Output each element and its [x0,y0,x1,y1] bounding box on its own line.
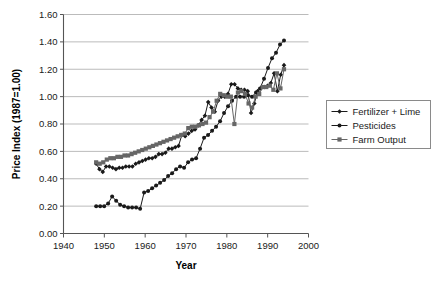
data-point [222,111,226,115]
data-point [214,125,218,129]
data-point [194,156,198,160]
data-point [98,204,102,208]
data-point [226,104,230,108]
data-point [94,204,98,208]
data-point [182,166,186,170]
legend-label: Fertilizer + Lime [353,106,421,117]
y-tick-label: 0.60 [39,146,58,157]
data-point [178,164,182,168]
data-point [146,189,150,193]
x-tick-label: 1970 [175,240,196,251]
x-axis-title: Year [175,260,196,271]
data-point [186,160,190,164]
data-point [158,181,162,185]
data-point [154,184,158,188]
circle-marker [338,124,342,128]
data-point [278,86,282,90]
data-point [142,190,146,194]
data-point [134,205,138,209]
data-point [268,84,272,88]
y-tick-label: 1.20 [39,64,58,75]
data-point [207,115,211,119]
y-tick-label: 0.80 [39,118,58,129]
data-point [278,43,282,47]
data-point [282,67,286,71]
data-point [122,204,126,208]
data-point [266,66,270,70]
data-point [262,77,266,81]
data-point [126,205,130,209]
y-tick-labels: 0.000.200.400.600.801.001.201.401.60 [39,9,58,239]
x-tick-label: 1960 [135,240,156,251]
data-point [243,92,247,96]
x-tick-label: 1980 [216,240,237,251]
data-point [250,95,254,99]
data-point [257,92,261,96]
data-point [118,203,122,207]
data-point [270,56,274,60]
data-point [150,186,154,190]
data-point [210,129,214,133]
data-point [190,158,194,162]
data-point [130,205,134,209]
chart-figure: 0.000.200.400.600.801.001.201.401.60 194… [0,0,437,285]
data-point [274,51,278,55]
x-tick-label: 1940 [53,240,74,251]
data-point [102,204,106,208]
y-tick-label: 1.00 [39,91,58,102]
data-point [271,88,275,92]
data-point [138,207,142,211]
data-point [183,131,187,135]
data-point [106,201,110,205]
y-axis-title: Price Index (1987=1.00) [11,69,22,179]
data-point [337,137,341,141]
y-tick-label: 0.40 [39,173,58,184]
data-point [275,71,279,75]
y-tick-label: 0.20 [39,201,58,212]
data-point [338,124,342,128]
data-point [174,167,178,171]
chart-legend: Fertilizer + LimePesticidesFarm Output [327,101,431,149]
data-point [110,195,114,199]
data-point [166,174,170,178]
data-point [246,101,250,105]
data-point [204,121,208,125]
legend-label: Farm Output [353,134,407,145]
y-tick-label: 1.40 [39,36,58,47]
data-point [215,99,219,103]
data-point [198,147,202,151]
y-tick-label: 0.00 [39,228,58,239]
data-point [162,178,166,182]
data-point [232,122,236,126]
data-point [250,105,254,109]
data-point [238,95,242,99]
x-tick-label: 1990 [257,240,278,251]
data-point [229,95,233,99]
data-point [202,136,206,140]
x-tick-label: 2000 [298,240,319,251]
legend-label: Pesticides [353,120,397,131]
data-point [114,199,118,203]
data-point [282,39,286,43]
data-point [218,119,222,123]
x-tick-label: 1950 [94,240,115,251]
y-tick-label: 1.60 [39,9,58,20]
data-point [206,133,210,137]
square-marker [337,137,341,141]
data-point [211,110,215,114]
price-index-line-chart: 0.000.200.400.600.801.001.201.401.60 194… [0,0,437,285]
data-point [170,171,174,175]
